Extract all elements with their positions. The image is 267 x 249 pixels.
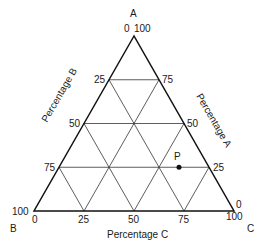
tick-br-100: 100	[226, 211, 243, 222]
axis-title-c: Percentage C	[107, 229, 168, 240]
tick-right-50: 50	[187, 118, 199, 129]
tick-left-75: 75	[44, 162, 56, 173]
tick-left-25: 25	[94, 74, 106, 85]
grid-lines	[59, 80, 209, 211]
point-p-marker	[177, 165, 182, 170]
point-p-label: P	[174, 151, 181, 162]
tick-top-0: 0	[124, 23, 130, 34]
vertex-label-a: A	[130, 8, 137, 19]
tick-bottom-50: 50	[128, 214, 140, 225]
tick-right-75: 75	[162, 74, 174, 85]
tick-left-50: 50	[69, 118, 81, 129]
ternary-diagram: A B C 0 100 100 0 0 100 25 50 75 75 50 2…	[0, 0, 267, 249]
vertex-label-c: C	[247, 223, 254, 234]
axis-title-a: Percentage A	[194, 92, 234, 150]
tick-bottom-75: 75	[178, 214, 190, 225]
tick-br-0: 0	[236, 199, 242, 210]
tick-top-100: 100	[134, 23, 151, 34]
tick-bl-0: 0	[32, 214, 38, 225]
tick-right-25: 25	[213, 162, 225, 173]
axis-title-b: Percentage B	[39, 66, 79, 124]
tick-bottom-25: 25	[78, 214, 90, 225]
vertex-label-b: B	[10, 223, 17, 234]
tick-bl-100: 100	[12, 206, 29, 217]
